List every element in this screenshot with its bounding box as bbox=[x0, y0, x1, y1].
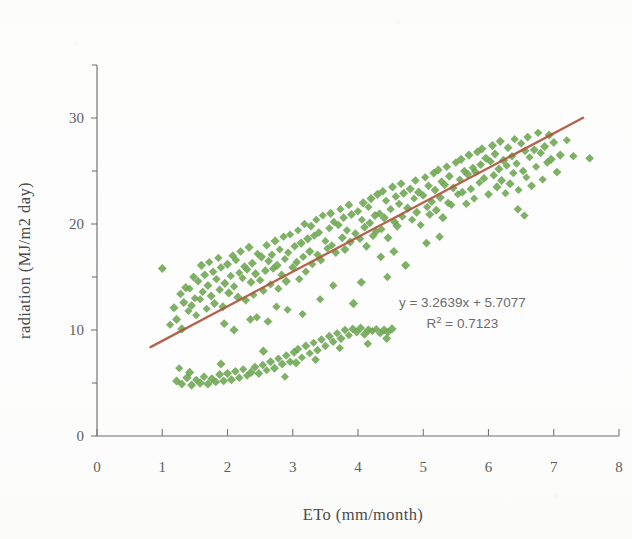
data-point bbox=[410, 195, 417, 202]
data-point bbox=[230, 283, 238, 291]
data-point bbox=[224, 289, 233, 298]
data-point bbox=[314, 346, 322, 354]
scatter-plot: 0102030012345678ETo (mm/month)radiation … bbox=[0, 0, 632, 539]
data-point bbox=[392, 192, 400, 200]
data-point bbox=[170, 303, 179, 312]
x-tick-label: 7 bbox=[550, 459, 558, 475]
chart-annotations: y = 3.2639x + 5.7077R2 = 0.7123 bbox=[399, 295, 526, 331]
data-point bbox=[176, 290, 184, 298]
data-point bbox=[426, 210, 434, 218]
data-point bbox=[491, 150, 499, 158]
data-point bbox=[569, 152, 577, 160]
data-point bbox=[199, 288, 207, 296]
data-point bbox=[384, 234, 392, 242]
data-point bbox=[299, 310, 307, 318]
data-point bbox=[273, 303, 281, 311]
data-point bbox=[526, 153, 534, 161]
data-point bbox=[196, 295, 204, 303]
data-point bbox=[367, 194, 376, 203]
data-point bbox=[408, 216, 416, 224]
r-squared-label: R2 = 0.7123 bbox=[427, 314, 499, 331]
data-point bbox=[245, 243, 254, 252]
data-point bbox=[220, 319, 228, 327]
data-point bbox=[401, 261, 410, 270]
data-point bbox=[175, 364, 182, 371]
data-point bbox=[329, 282, 337, 290]
x-tick-label: 2 bbox=[224, 459, 232, 475]
x-tick-label: 8 bbox=[615, 459, 623, 475]
data-point bbox=[422, 239, 430, 247]
data-point bbox=[477, 161, 485, 169]
data-point bbox=[364, 340, 372, 348]
chart-page: 0102030012345678ETo (mm/month)radiation … bbox=[0, 0, 632, 539]
data-point bbox=[209, 268, 217, 276]
data-point bbox=[281, 373, 289, 381]
data-point bbox=[307, 222, 315, 230]
data-point bbox=[264, 317, 272, 325]
data-point bbox=[532, 163, 540, 171]
x-tick-label: 0 bbox=[93, 459, 101, 475]
data-point bbox=[319, 212, 327, 220]
data-point bbox=[553, 168, 561, 176]
data-point bbox=[534, 129, 542, 137]
data-point bbox=[281, 255, 289, 263]
data-point bbox=[423, 203, 431, 211]
data-point bbox=[397, 180, 405, 188]
data-point bbox=[282, 351, 290, 359]
y-tick-label: 30 bbox=[69, 110, 84, 126]
data-point bbox=[411, 176, 419, 184]
data-point bbox=[295, 275, 303, 283]
data-point bbox=[502, 190, 509, 197]
data-point bbox=[524, 133, 532, 141]
data-point bbox=[383, 273, 391, 281]
data-point bbox=[345, 201, 353, 209]
data-point bbox=[556, 151, 565, 160]
data-point bbox=[343, 226, 351, 234]
data-points bbox=[158, 129, 594, 389]
data-point bbox=[467, 185, 475, 193]
axes bbox=[91, 65, 619, 436]
x-tick-label: 6 bbox=[485, 459, 493, 475]
data-point bbox=[322, 237, 329, 244]
data-point bbox=[237, 248, 245, 256]
data-point bbox=[299, 253, 307, 261]
data-point bbox=[248, 259, 257, 268]
data-point bbox=[216, 286, 224, 294]
data-point bbox=[388, 183, 397, 192]
data-point bbox=[406, 185, 415, 194]
data-point bbox=[417, 221, 424, 228]
data-point bbox=[302, 268, 310, 276]
data-point bbox=[514, 205, 522, 213]
data-point bbox=[387, 205, 395, 213]
data-point bbox=[527, 182, 535, 190]
data-point bbox=[488, 141, 497, 150]
data-point bbox=[438, 213, 447, 222]
data-point bbox=[215, 254, 223, 262]
series-upper-cluster bbox=[158, 129, 594, 334]
data-point bbox=[276, 246, 283, 253]
data-point bbox=[340, 214, 348, 222]
data-point bbox=[172, 315, 181, 324]
data-point bbox=[506, 179, 515, 188]
data-point bbox=[382, 197, 390, 205]
data-point bbox=[421, 174, 429, 182]
data-point bbox=[424, 182, 432, 190]
data-point bbox=[443, 163, 451, 171]
data-point bbox=[317, 336, 325, 344]
data-point bbox=[357, 278, 366, 287]
trendline bbox=[151, 118, 584, 347]
data-point bbox=[253, 313, 261, 321]
data-point bbox=[521, 212, 529, 220]
data-point bbox=[431, 186, 439, 194]
data-point bbox=[259, 347, 268, 356]
x-tick-label: 5 bbox=[420, 459, 428, 475]
data-point bbox=[586, 154, 594, 162]
data-point bbox=[497, 176, 506, 185]
data-point bbox=[412, 208, 420, 216]
data-point bbox=[336, 344, 344, 352]
data-point bbox=[256, 276, 264, 284]
data-point bbox=[493, 183, 502, 192]
data-point bbox=[221, 279, 230, 288]
data-point bbox=[212, 275, 220, 283]
data-point bbox=[484, 190, 492, 198]
